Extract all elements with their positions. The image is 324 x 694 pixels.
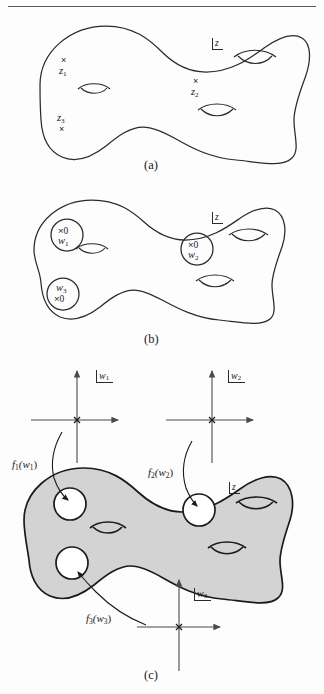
disk-w2-label: w2 — [188, 249, 199, 262]
chart-w3-label: w3 — [194, 588, 211, 601]
mark-z2-label: z2 — [191, 86, 199, 99]
chart-axes-w1 — [31, 371, 118, 463]
chart-w2-label: w2 — [228, 370, 245, 383]
map-label-f2: f2(w2) — [148, 466, 173, 480]
panel-a-handle-3 — [198, 104, 236, 116]
mark-z1-cross: × — [61, 55, 66, 65]
chart-w1-label: w1 — [96, 370, 113, 383]
figure-root: × z1 × z2 z3 × z (a) ×0 w1 ×0 w2 w3 ×0 z… — [0, 0, 324, 694]
panel-b-handle-1 — [76, 244, 108, 254]
mark-z3-cross: × — [59, 124, 64, 134]
panel-a-handle-2 — [234, 50, 276, 63]
map-label-f3: f3(w3) — [86, 612, 111, 626]
disk-w3-cross-zero: ×0 — [54, 293, 64, 304]
panel-c-caption: (c) — [144, 668, 158, 683]
panel-c-surface — [24, 468, 293, 603]
panel-b-surface-label: z — [212, 212, 223, 224]
mark-z1-label: z1 — [59, 65, 67, 78]
panel-b-surface — [34, 200, 285, 323]
panel-a-caption: (a) — [144, 158, 158, 173]
figure-canvas — [0, 0, 324, 694]
panel-c-surface-label: z — [229, 482, 240, 494]
chart-axes-w2 — [166, 371, 253, 463]
mark-z2-cross: × — [193, 76, 198, 86]
panel-b-caption: (b) — [144, 332, 159, 347]
panel-c-disk-w3 — [56, 547, 88, 579]
panel-c-disk-w1 — [54, 488, 86, 520]
map-label-f1: f1(w1) — [12, 458, 37, 472]
panel-a-surface — [40, 26, 310, 164]
panel-b-handle-3 — [196, 275, 234, 287]
panel-a-surface-label: z — [212, 38, 223, 50]
panel-b-handle-2 — [229, 229, 268, 241]
panel-c-disk-w2 — [183, 494, 215, 526]
panel-a-handle-1 — [78, 84, 110, 94]
mark-z3-label: z3 — [57, 112, 65, 125]
disk-w1-label: w1 — [58, 235, 69, 248]
